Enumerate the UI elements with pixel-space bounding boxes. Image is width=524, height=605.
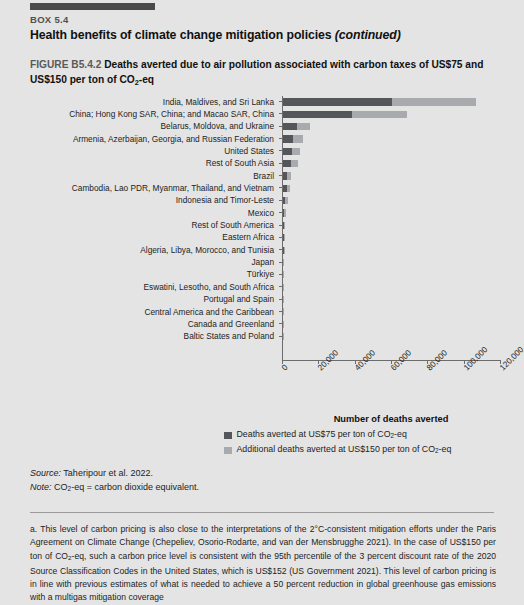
stacked-bar[interactable]: [282, 98, 476, 105]
bar-segment-series2[interactable]: [285, 197, 288, 204]
chart-row: Türkiye: [0, 269, 524, 281]
category-label: Türkiye: [0, 270, 278, 279]
chart-row: China; Hong Kong SAR, China; and Macao S…: [0, 108, 524, 120]
chart-row: Rest of South America: [0, 219, 524, 231]
chart-row: Belarus, Moldova, and Ukraine: [0, 121, 524, 133]
y-axis-tick: [279, 126, 282, 127]
legend-item-series2: Additional deaths averted at US$150 per …: [224, 443, 451, 458]
bar-track: [278, 133, 524, 145]
legend-label-series2-end: -eq: [439, 444, 452, 454]
y-axis-tick: [279, 299, 282, 300]
bar-segment-series1[interactable]: [282, 160, 291, 167]
bar-track: [278, 281, 524, 293]
bar-segment-series2[interactable]: [284, 209, 286, 216]
category-label: Indonesia and Timor-Leste: [0, 196, 278, 205]
chart-row: Brazil: [0, 170, 524, 182]
category-label: Central America and the Caribbean: [0, 308, 278, 317]
stacked-bar[interactable]: [282, 148, 300, 155]
bar-track: [278, 96, 524, 108]
box-label: BOX 5.4: [30, 14, 69, 25]
chart-row: Canada and Greenland: [0, 318, 524, 330]
bar-segment-series1[interactable]: [282, 98, 392, 105]
note-label: Note:: [30, 482, 52, 492]
bar-segment-series2[interactable]: [287, 172, 291, 179]
stacked-bar[interactable]: [282, 160, 298, 167]
chart-row: Baltic States and Poland: [0, 331, 524, 343]
stacked-bar[interactable]: [282, 135, 303, 142]
bar-segment-series2[interactable]: [284, 222, 285, 229]
chart-row: Armenia, Azerbaijan, Georgia, and Russia…: [0, 133, 524, 145]
y-axis-tick: [279, 200, 282, 201]
y-axis-tick: [279, 311, 282, 312]
bar-track: [278, 219, 524, 231]
bar-segment-series2[interactable]: [352, 111, 407, 118]
category-label: India, Maldives, and Sri Lanka: [0, 98, 278, 107]
bar-segment-series1[interactable]: [282, 111, 352, 118]
bar-track: [278, 108, 524, 120]
bar-segment-series1[interactable]: [282, 135, 293, 142]
y-axis-line: [282, 96, 283, 361]
chart-row: Rest of South Asia: [0, 158, 524, 170]
bar-track: [278, 145, 524, 157]
bar-segment-series1[interactable]: [282, 148, 292, 155]
bar-track: [278, 306, 524, 318]
y-axis-tick: [279, 274, 282, 275]
y-axis-tick: [279, 138, 282, 139]
y-axis-tick: [279, 225, 282, 226]
stacked-bar[interactable]: [282, 111, 407, 118]
stacked-bar[interactable]: [282, 123, 310, 130]
y-axis-tick: [279, 101, 282, 102]
category-label: Portugal and Spain: [0, 295, 278, 304]
y-axis-tick: [279, 187, 282, 188]
chart-row: Portugal and Spain: [0, 294, 524, 306]
bar-segment-series2[interactable]: [293, 135, 303, 142]
legend-swatch-series2-icon: [224, 447, 232, 455]
bar-segment-series2[interactable]: [283, 271, 284, 278]
bar-segment-series2[interactable]: [283, 284, 284, 291]
chart-row: Indonesia and Timor-Leste: [0, 195, 524, 207]
x-axis-tick-label: 100,000: [462, 345, 489, 372]
figure-number: FIGURE B5.4.2: [30, 59, 101, 70]
stacked-bar[interactable]: [282, 172, 291, 179]
bar-segment-series2[interactable]: [292, 148, 300, 155]
bar-segment-series2[interactable]: [283, 259, 284, 266]
bar-segment-series2[interactable]: [392, 98, 476, 105]
chart-row: Cambodia, Lao PDR, Myanmar, Thailand, an…: [0, 182, 524, 194]
bar-track: [278, 256, 524, 268]
legend-item-series1: Deaths averted at US$75 per ton of CO2-e…: [224, 428, 451, 443]
bar-track: [278, 269, 524, 281]
category-label: Cambodia, Lao PDR, Myanmar, Thailand, an…: [0, 184, 278, 193]
y-axis-tick: [279, 249, 282, 250]
footnote-text: a. This level of carbon pricing is also …: [30, 523, 496, 605]
bar-segment-series2[interactable]: [284, 247, 285, 254]
bar-track: [278, 121, 524, 133]
bar-segment-series2[interactable]: [284, 234, 285, 241]
bar-segment-series2[interactable]: [297, 123, 310, 130]
category-label: Mexico: [0, 209, 278, 218]
stacked-bar[interactable]: [282, 185, 290, 192]
category-label: China; Hong Kong SAR, China; and Macao S…: [0, 110, 278, 119]
category-label: Armenia, Azerbaijan, Georgia, and Russia…: [0, 135, 278, 144]
category-label: United States: [0, 147, 278, 156]
source-text: Taheripour et al. 2022.: [61, 468, 153, 478]
bar-segment-series1[interactable]: [282, 123, 297, 130]
note-text-a: CO: [52, 482, 68, 492]
bar-track: [278, 244, 524, 256]
category-label: Japan: [0, 258, 278, 267]
bar-track: [278, 318, 524, 330]
bar-track: [278, 232, 524, 244]
bar-segment-series2[interactable]: [291, 160, 298, 167]
category-label: Eswatini, Lesotho, and South Africa: [0, 283, 278, 292]
y-axis-tick: [279, 262, 282, 263]
category-label: Algeria, Libya, Morocco, and Tunisia: [0, 246, 278, 255]
note-text-b: -eq = carbon dioxide equivalent.: [71, 482, 199, 492]
chart-row: India, Maldives, and Sri Lanka: [0, 96, 524, 108]
bar-segment-series2[interactable]: [287, 185, 290, 192]
legend-label-series1-text: Deaths averted at US$75 per ton of CO: [237, 429, 391, 439]
figure-title-part2: -eq: [139, 74, 154, 85]
category-label: Rest of South Asia: [0, 159, 278, 168]
bar-track: [278, 207, 524, 219]
chart-row: United States: [0, 145, 524, 157]
category-label: Belarus, Moldova, and Ukraine: [0, 122, 278, 131]
